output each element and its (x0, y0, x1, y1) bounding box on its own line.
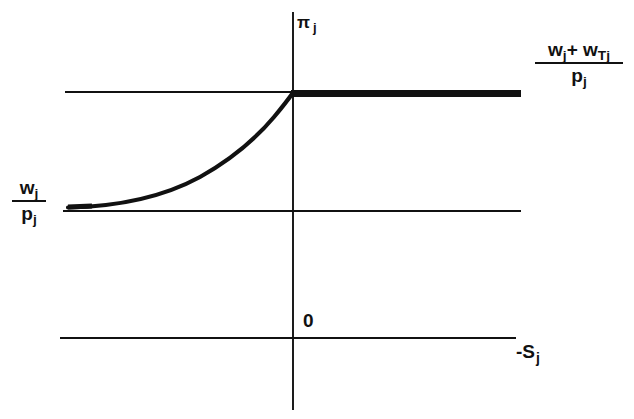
upper-fraction-numerator: wj+ wTj (535, 40, 623, 60)
lower-fraction-bar (12, 200, 46, 202)
y-axis-subscript: j (313, 20, 317, 35)
upper-value-label: wj+ wTj pj (535, 40, 623, 86)
x-axis-label: -Sj (516, 342, 539, 361)
upper-num-sub-1: j (563, 48, 567, 63)
lower-den-base: p (21, 203, 33, 224)
y-axis-label: πj (297, 14, 314, 31)
economics-figure: πj -Sj 0 wj pj wj+ wTj pj (0, 0, 634, 419)
origin-label: 0 (303, 311, 314, 330)
lower-num-base: w (20, 177, 35, 198)
x-axis-subscript: j (536, 350, 540, 366)
upper-den-base: p (571, 65, 583, 86)
upper-num-base-1: w (548, 39, 563, 60)
lower-num-subscript: j (34, 186, 38, 201)
x-axis-symbol: -S (516, 341, 535, 362)
upper-num-sub-2: Tj (598, 48, 610, 63)
lower-den-subscript: j (33, 212, 37, 227)
upper-den-subscript: j (583, 74, 587, 89)
lower-fraction-denominator: pj (12, 204, 46, 224)
upper-fraction-denominator: pj (535, 66, 623, 86)
lower-fraction-numerator: wj (12, 178, 46, 198)
profit-curve (68, 92, 294, 208)
curve-asymptote-nub (68, 206, 92, 207)
y-axis-symbol: π (297, 13, 310, 32)
lower-value-label: wj pj (12, 178, 46, 224)
upper-num-plus: + w (567, 39, 598, 60)
